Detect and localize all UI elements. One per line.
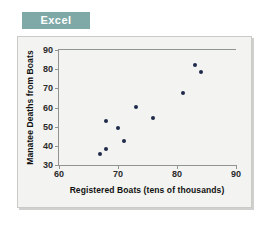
scatter-point bbox=[104, 147, 108, 151]
screenshot-root: Excel Manatee Deaths from Boats 30405060… bbox=[0, 0, 269, 225]
y-tick-mark bbox=[55, 50, 59, 51]
y-tick-mark bbox=[55, 69, 59, 70]
excel-banner: Excel bbox=[22, 12, 90, 29]
scatter-point bbox=[122, 139, 126, 143]
plot-wrapper: Manatee Deaths from Boats 30405060708090… bbox=[18, 37, 253, 209]
y-tick-label: 70 bbox=[43, 83, 53, 93]
scatter-point bbox=[193, 63, 197, 67]
y-tick-label: 60 bbox=[43, 103, 53, 113]
scatter-point bbox=[199, 70, 203, 74]
x-axis-title: Registered Boats (tens of thousands) bbox=[58, 185, 236, 195]
scatter-point bbox=[104, 119, 108, 123]
y-tick-label: 90 bbox=[43, 45, 53, 55]
scatter-point bbox=[181, 91, 185, 95]
excel-banner-label: Excel bbox=[40, 15, 71, 26]
scatter-point bbox=[134, 105, 138, 109]
y-tick-mark bbox=[55, 108, 59, 109]
scatter-point bbox=[151, 116, 155, 120]
y-tick-label: 80 bbox=[43, 64, 53, 74]
x-tick-label: 70 bbox=[113, 169, 123, 179]
plot-area: 30405060708090 60708090 bbox=[58, 49, 236, 166]
y-tick-label: 50 bbox=[43, 122, 53, 132]
y-axis-title: Manatee Deaths from Boats bbox=[24, 49, 36, 166]
x-tick-label: 80 bbox=[172, 169, 182, 179]
x-tick-label: 60 bbox=[54, 169, 64, 179]
x-tick-label: 90 bbox=[231, 169, 241, 179]
scatter-point bbox=[116, 126, 120, 130]
y-tick-label: 30 bbox=[43, 160, 53, 170]
y-tick-mark bbox=[55, 146, 59, 147]
chart-card: Manatee Deaths from Boats 30405060708090… bbox=[17, 36, 252, 208]
y-tick-label: 40 bbox=[43, 141, 53, 151]
scatter-point bbox=[98, 152, 102, 156]
y-tick-mark bbox=[55, 88, 59, 89]
y-tick-mark bbox=[55, 127, 59, 128]
